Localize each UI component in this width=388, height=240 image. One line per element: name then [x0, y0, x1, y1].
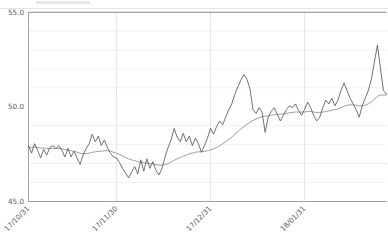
y-axis-tick-labels: 55.0 50.0 45.0: [8, 8, 24, 207]
line-chart: 55.0 50.0 45.0 17/10/31 17/11/30 17/12/3…: [0, 0, 388, 240]
horizontal-major-gridlines: [29, 12, 387, 202]
x-tick-label-2: 17/11/30: [90, 204, 119, 233]
x-tick-label-4: 18/01/31: [278, 204, 307, 233]
x-tick-label-3: 17/12/31: [184, 204, 213, 233]
series-line-price: [29, 45, 387, 178]
y-tick-label-55: 55.0: [8, 8, 24, 17]
series-group: [29, 45, 387, 178]
chart-container: 55.0 50.0 45.0 17/10/31 17/11/30 17/12/3…: [0, 0, 388, 240]
series-line-moving-average: [29, 95, 387, 165]
y-tick-label-45: 45.0: [8, 197, 24, 206]
x-tick-label-1: 17/10/31: [2, 204, 31, 233]
horizontal-minor-gridlines: [29, 31, 387, 183]
vertical-gridlines: [116, 12, 304, 202]
axis-spines: [29, 12, 387, 202]
x-axis-tick-labels: 17/10/31 17/11/30 17/12/31 18/01/31: [2, 204, 307, 233]
y-tick-label-50: 50.0: [8, 102, 24, 111]
top-artifact: [0, 2, 388, 9]
